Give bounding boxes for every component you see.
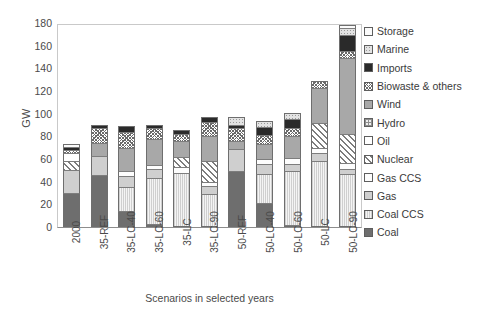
bar-segment [228, 141, 245, 149]
x-axis-label: Scenarios in selected years [57, 292, 362, 304]
bar-segment [311, 161, 328, 227]
x-tick-wrapper: 50-REF [229, 230, 246, 290]
legend-item[interactable]: Biowaste & others [364, 77, 480, 95]
x-tick-wrapper: 50-LC-90 [340, 230, 357, 290]
bar-column[interactable] [284, 25, 301, 227]
y-axis-ticks: 180160140120100806040200 [0, 0, 52, 252]
bar-segment [228, 128, 245, 140]
bar-segment [173, 141, 190, 157]
bar-segment [284, 113, 301, 120]
legend-item[interactable]: Marine [364, 40, 480, 58]
bar-segment [118, 132, 135, 148]
bar-segment [256, 121, 273, 128]
bar-segment [339, 35, 356, 51]
x-tick-label: 35-LC-60 [154, 211, 165, 253]
x-tick-wrapper: 35-LC-90 [201, 230, 218, 290]
x-tick-label: 50-LC-40 [265, 211, 276, 253]
legend-item[interactable]: Oil [364, 132, 480, 150]
legend-item[interactable]: Gas CCS [364, 168, 480, 186]
bar-segment [339, 28, 356, 35]
bar-segment [91, 128, 108, 143]
x-tick-wrapper: 50-LC-40 [256, 230, 273, 290]
bar-column[interactable] [311, 25, 328, 227]
x-tick-wrapper: 35-LC [173, 230, 190, 290]
bar-segment [311, 88, 328, 123]
bar-column[interactable] [118, 25, 135, 227]
x-tick-label: 50-LC [320, 218, 331, 245]
bar-column[interactable] [63, 25, 80, 227]
plot-area [57, 24, 362, 228]
bar-segment [63, 153, 80, 161]
bar-column[interactable] [201, 25, 218, 227]
x-tick-wrapper: 35-REF [90, 230, 107, 290]
bar-column[interactable] [91, 25, 108, 227]
legend-item[interactable]: Nuclear [364, 150, 480, 168]
bar-segment [284, 136, 301, 158]
bar-segment [173, 157, 190, 167]
x-tick-wrapper: 35-LC-40 [118, 230, 135, 290]
x-tick-label: 35-LC-40 [126, 211, 137, 253]
bar-column[interactable] [228, 25, 245, 227]
x-tick-label: 50-REF [237, 215, 248, 249]
legend-item-label: Biowaste & others [377, 80, 462, 92]
legend-swatch-icon [364, 228, 373, 237]
bar-segment [256, 174, 273, 203]
bar-segment [146, 128, 163, 138]
legend-swatch-icon [364, 136, 373, 145]
x-tick-label: 35-LC [182, 218, 193, 245]
bar-segment [118, 148, 135, 172]
chart-legend: StorageMarineImportsBiowaste & othersWin… [364, 22, 480, 242]
legend-item-label: Marine [377, 43, 409, 55]
bar-segment [146, 139, 163, 165]
legend-swatch-icon [364, 118, 373, 127]
legend-swatch-icon [364, 63, 373, 72]
legend-item[interactable]: Hydro [364, 113, 480, 131]
bar-segment [118, 176, 135, 187]
legend-item[interactable]: Storage [364, 22, 480, 40]
bar-segment [91, 156, 108, 175]
y-tick-label: 40 [6, 176, 52, 188]
legend-item[interactable]: Gas [364, 187, 480, 205]
legend-item[interactable]: Imports [364, 59, 480, 77]
legend-swatch-icon [364, 191, 373, 200]
bar-segment [256, 144, 273, 159]
legend-item[interactable]: Coal [364, 223, 480, 241]
bar-column[interactable] [173, 25, 190, 227]
stacked-bar-chart: GW 180160140120100806040200 200035-REF35… [0, 0, 482, 311]
bar-segment [91, 143, 108, 155]
x-tick-label: 50-LC-60 [293, 211, 304, 253]
legend-item[interactable]: Coal CCS [364, 205, 480, 223]
bar-segment [201, 122, 218, 137]
x-tick-wrapper: 35-LC-60 [146, 230, 163, 290]
bar-segment [146, 169, 163, 178]
legend-swatch-icon [364, 173, 373, 182]
bar-segment [63, 161, 80, 170]
legend-item-label: Hydro [377, 117, 405, 129]
x-tick-label: 2000 [71, 221, 82, 243]
y-tick-label: 120 [6, 85, 52, 97]
legend-item-label: Nuclear [377, 153, 413, 165]
x-tick-wrapper: 50-LC [312, 230, 329, 290]
bar-segment [311, 153, 328, 161]
bar-segment [201, 186, 218, 194]
bar-segment [311, 123, 328, 148]
bar-segment [284, 119, 301, 128]
legend-swatch-icon [364, 210, 373, 219]
bar-column[interactable] [256, 25, 273, 227]
legend-item[interactable]: Wind [364, 95, 480, 113]
legend-item-label: Coal CCS [377, 208, 424, 220]
bar-column[interactable] [339, 25, 356, 227]
bar-segment [118, 187, 135, 211]
y-tick-label: 80 [6, 130, 52, 142]
bar-segment [311, 81, 328, 88]
y-tick-label: 100 [6, 108, 52, 120]
y-tick-label: 0 [6, 221, 52, 233]
y-tick-label: 60 [6, 153, 52, 165]
x-tick-label: 35-REF [99, 215, 110, 249]
bar-segment [228, 117, 245, 125]
bar-column[interactable] [146, 25, 163, 227]
bar-segment [201, 161, 218, 181]
legend-swatch-icon [364, 100, 373, 109]
x-axis-ticks: 200035-REF35-LC-4035-LC-6035-LC35-LC-905… [57, 230, 362, 290]
legend-item-label: Coal [377, 226, 399, 238]
